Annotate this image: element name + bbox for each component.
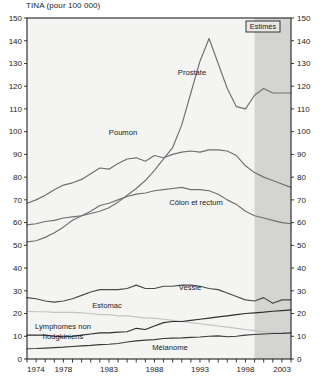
y-axis-tick-label: 40	[13, 264, 22, 273]
estimated-region-shading	[255, 18, 291, 359]
y-axis-tick-label: 70	[13, 196, 22, 205]
y-axis-tick-label: 120	[297, 82, 311, 91]
y-axis-tick-label: 30	[13, 287, 22, 296]
y-axis-tick-label: 60	[13, 218, 22, 227]
y-axis-tick-label: 90	[13, 150, 22, 159]
line-chart-plot: 0010102020303040405050606070708080909010…	[0, 0, 332, 382]
y-axis-tick-label: 130	[297, 59, 311, 68]
y-axis-tick-label: 50	[13, 241, 22, 250]
y-axis-tick-label: 150	[297, 14, 311, 23]
y-axis-tick-label: 100	[9, 127, 23, 136]
y-axis-tick-label: 20	[297, 309, 306, 318]
series-label: Prostate	[178, 68, 206, 77]
chart-container: TINA (pour 100 000) 00101020203030404050…	[0, 0, 332, 382]
y-axis-tick-label: 100	[297, 127, 311, 136]
y-axis-tick-label: 0	[18, 355, 23, 364]
series-label: Poumon	[109, 128, 137, 137]
series-label: Vessie	[179, 283, 201, 292]
series-label: Lymphomes non	[35, 322, 91, 331]
x-axis-tick-label: 1998	[237, 365, 255, 374]
series-label: hodgkiniens	[43, 332, 84, 341]
y-axis-tick-label: 10	[297, 332, 306, 341]
chart-title: TINA (pour 100 000)	[26, 1, 100, 10]
series-label: Côlon et rectum	[169, 198, 223, 207]
y-axis-tick-label: 120	[9, 82, 23, 91]
y-axis-tick-label: 90	[297, 150, 306, 159]
x-axis-tick-label: 1978	[55, 365, 73, 374]
y-axis-tick-label: 150	[9, 14, 23, 23]
y-axis-tick-label: 20	[13, 309, 22, 318]
estimated-label-text: Estimés	[250, 22, 277, 31]
y-axis-tick-label: 80	[297, 173, 306, 182]
y-axis-tick-label: 50	[297, 241, 306, 250]
x-axis-tick-label: 1983	[100, 365, 118, 374]
y-axis-tick-label: 80	[13, 173, 22, 182]
y-axis-tick-label: 30	[297, 287, 306, 296]
x-axis-tick-label: 1988	[146, 365, 164, 374]
series-label: Mélanome	[152, 343, 187, 352]
series-label: Estomac	[92, 301, 122, 310]
x-axis-tick-label: 1974	[27, 365, 45, 374]
y-axis-tick-label: 60	[297, 218, 306, 227]
y-axis-tick-label: 130	[9, 59, 23, 68]
y-axis-tick-label: 10	[13, 332, 22, 341]
y-axis-tick-label: 40	[297, 264, 306, 273]
y-axis-tick-label: 140	[9, 37, 23, 46]
y-axis-tick-label: 110	[9, 105, 22, 114]
plot-background	[27, 18, 291, 359]
x-axis-tick-label: 2003	[273, 365, 291, 374]
y-axis-tick-label: 110	[297, 105, 310, 114]
y-axis-tick-label: 0	[297, 355, 302, 364]
y-axis-tick-label: 140	[297, 37, 311, 46]
x-axis-tick-label: 1993	[191, 365, 209, 374]
y-axis-tick-label: 70	[297, 196, 306, 205]
